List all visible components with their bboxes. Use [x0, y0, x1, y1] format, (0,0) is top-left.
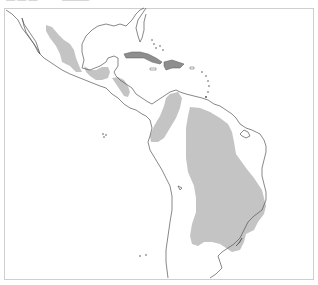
gulf-of-mexico-coast — [82, 8, 144, 68]
baja-california-coast — [22, 18, 40, 54]
puerto-rico-island — [190, 67, 194, 69]
southern-mexico-yucatan-range — [84, 66, 110, 80]
hispaniola-island — [164, 60, 184, 70]
central-brazil-range — [186, 107, 266, 252]
pacific-islets — [139, 254, 147, 257]
bahamas-islands — [151, 39, 164, 51]
cuba-island — [124, 52, 162, 64]
lesser-antilles-islands — [201, 71, 210, 98]
titicaca-lake — [178, 186, 182, 190]
amazon-delta-coast — [240, 130, 250, 138]
florida-coast — [136, 8, 146, 42]
western-mexico-range — [46, 25, 82, 72]
central-america-range — [112, 77, 130, 97]
northern-andes-range — [150, 92, 182, 142]
galapagos-islands — [102, 133, 107, 138]
jamaica-island — [150, 68, 156, 70]
range-map — [0, 0, 318, 285]
